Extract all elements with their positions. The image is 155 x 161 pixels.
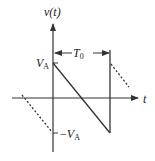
period-label: T0 bbox=[73, 47, 84, 61]
va-label: VA bbox=[36, 57, 49, 71]
y-axis-label: v(t) bbox=[44, 6, 61, 18]
sawtooth-diagram: v(t) t T0 VA −VA bbox=[0, 0, 155, 161]
neg-va-label: −VA bbox=[60, 128, 80, 142]
left-dashed-ramp bbox=[22, 95, 52, 132]
right-dashed-ramp bbox=[111, 64, 129, 87]
x-axis-label: t bbox=[143, 93, 146, 105]
